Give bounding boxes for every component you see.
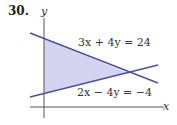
equation-line-2: 2x − 4y = −4 [77,86,152,99]
x-axis-label: x [163,100,169,113]
graph [0,0,177,125]
y-axis-label: y [41,5,47,18]
equation-line-1: 3x + 4y = 24 [78,36,151,49]
